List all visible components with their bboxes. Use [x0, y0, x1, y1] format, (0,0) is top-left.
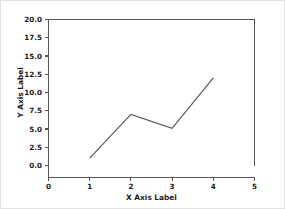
y-tick-label: 10.0 — [24, 88, 42, 97]
x-tick-label: 2 — [128, 182, 133, 191]
y-tick-label: 17.5 — [24, 33, 42, 42]
x-tick-label: 1 — [87, 182, 92, 191]
y-tick-label: 0.0 — [29, 161, 42, 170]
x-axis-title: X Axis Label — [126, 193, 177, 202]
figure-container: 0.0 2.5 5.0 7.5 10.0 12.5 15.0 17.5 20.0 — [0, 0, 285, 209]
y-tick-label: 20.0 — [24, 15, 42, 24]
x-tick-label: 4 — [211, 182, 216, 191]
y-tick-label: 7.5 — [29, 106, 42, 115]
x-tick-labels: 0 1 2 3 4 5 — [46, 182, 257, 191]
y-axis-title: Y Axis Label — [16, 67, 25, 118]
x-tick-label: 3 — [170, 182, 175, 191]
line-chart: 0.0 2.5 5.0 7.5 10.0 12.5 15.0 17.5 20.0 — [1, 1, 285, 209]
plot-area-background — [49, 20, 255, 166]
y-tick-label: 12.5 — [24, 70, 42, 79]
y-tick-label: 2.5 — [29, 143, 42, 152]
y-tick-label: 15.0 — [24, 52, 42, 61]
x-tick-label: 5 — [252, 182, 257, 191]
x-tick-label: 0 — [46, 182, 51, 191]
figure-canvas: 0.0 2.5 5.0 7.5 10.0 12.5 15.0 17.5 20.0 — [1, 1, 284, 208]
y-tick-label: 5.0 — [29, 125, 42, 134]
y-tick-labels: 0.0 2.5 5.0 7.5 10.0 12.5 15.0 17.5 20.0 — [24, 15, 42, 170]
